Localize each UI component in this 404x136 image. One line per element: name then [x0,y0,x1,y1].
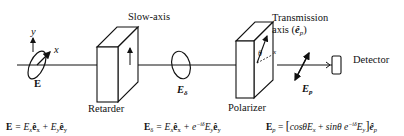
equation-output-field: Ep = [cosθEx + sinθ e−iδEy]êp [266,119,378,133]
output-field-label: Ep [301,83,313,96]
equation-retarded-field: Eδ = Exêx + e−iδEyêy [144,121,222,133]
x-axis-label: x [53,44,59,55]
retarded-field-label: Eδ [176,84,188,97]
transmission-label-line1: Transmission [272,12,329,23]
polarizer-block [236,22,273,98]
output-field-arrow [295,53,309,80]
detector-label: Detector [353,54,390,65]
y-axis-label: y [30,26,36,37]
polarizer-label: Polarizer [228,102,266,113]
input-field-label: E [34,78,41,89]
retarder-block [97,27,138,102]
theta-label: θ [258,49,262,58]
retarder-label: Retarder [88,103,125,114]
polarizer-x-label: x [272,48,277,56]
slow-axis-label: Slow-axis [128,11,170,22]
polarization-optics-diagram: y x E Slow-axis Retarder Eδ θ x Transmis… [0,0,404,136]
transmission-label-line2: axis (êp) [272,24,307,37]
equation-input-field: E = Exêx + Eyêy [6,122,68,133]
